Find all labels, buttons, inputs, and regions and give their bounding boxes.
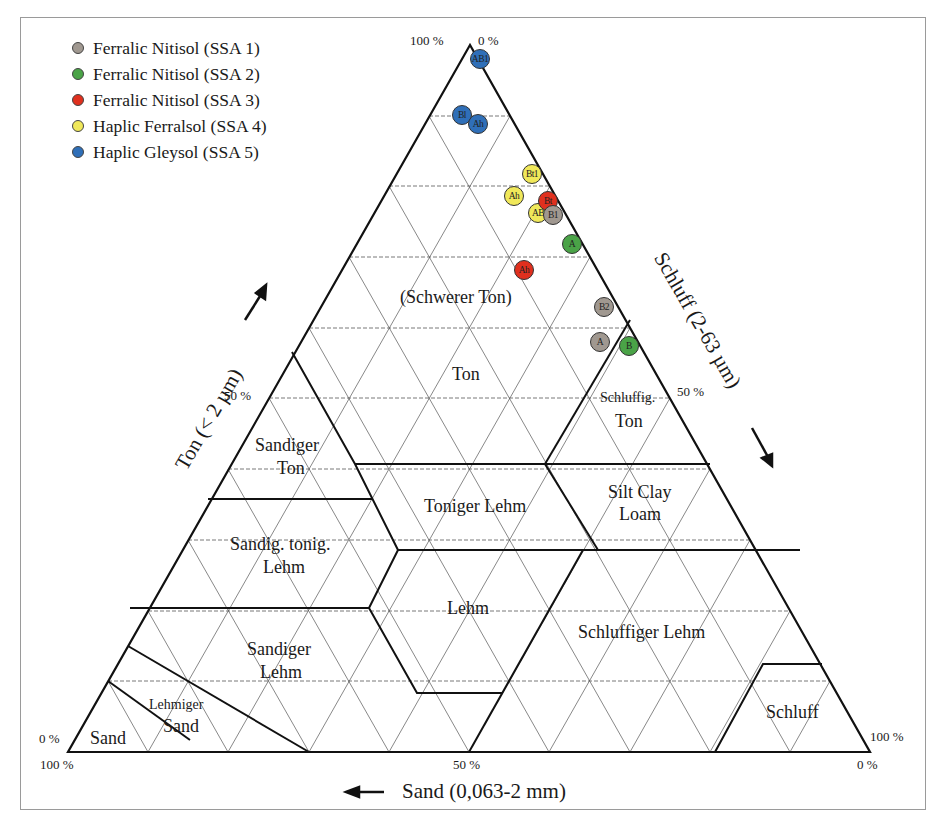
legend-label: Ferralic Nitisol (SSA 2) — [93, 64, 260, 85]
data-point-marker: B1 — [543, 205, 563, 225]
sand-axis-title: Sand (0,063-2 mm) — [402, 779, 566, 804]
legend-marker-icon — [72, 68, 84, 80]
data-point-marker: B — [619, 336, 639, 356]
region-ton: Ton — [452, 363, 480, 385]
legend-label: Ferralic Nitisol (SSA 3) — [93, 90, 260, 111]
tick-silt-0: 0 % — [478, 33, 499, 49]
region-silt-clay-2: Loam — [619, 503, 661, 525]
legend-item: Haplic Gleysol (SSA 5) — [72, 139, 267, 165]
region-silt-clay-1: Silt Clay — [608, 481, 672, 503]
tick-sand-0: 0 % — [857, 757, 878, 773]
grid-lines — [108, 116, 830, 752]
region-lehmiger-sand-2: Sand — [163, 715, 199, 737]
region-schluffig-ton: Ton — [615, 410, 643, 432]
data-point-marker: B2 — [594, 297, 614, 317]
legend-marker-icon — [72, 94, 84, 106]
region-sandiger-lehm-2: Lehm — [260, 661, 302, 683]
region-sandiger-ton-1: Sandiger — [255, 434, 319, 456]
legend-item: Haplic Ferralsol (SSA 4) — [72, 113, 267, 139]
region-lehmiger-sand-1: Lehmiger — [149, 696, 203, 713]
tick-clay-100: 100 % — [410, 33, 444, 49]
data-point-marker: Ah — [468, 114, 488, 134]
legend-item: Ferralic Nitisol (SSA 1) — [72, 35, 267, 61]
data-point-marker: AB1 — [470, 49, 490, 69]
region-lehm: Lehm — [447, 597, 489, 619]
region-schwerer-ton: (Schwerer Ton) — [400, 286, 512, 308]
legend-item: Ferralic Nitisol (SSA 3) — [72, 87, 267, 113]
data-point-marker: Ah — [504, 186, 524, 206]
data-point-marker: Bt1 — [522, 164, 542, 184]
tick-sand-50: 50 % — [453, 757, 480, 773]
region-sandiger-lehm-1: Sandiger — [247, 638, 311, 660]
legend-label: Haplic Gleysol (SSA 5) — [93, 142, 259, 163]
region-sand: Sand — [90, 727, 126, 749]
tick-silt-100: 100 % — [870, 729, 904, 745]
region-sandiger-ton-2: Ton — [277, 457, 305, 479]
data-point-marker: Ah — [514, 260, 534, 280]
region-sandig-tonig-lehm-1: Sandig. tonig. — [230, 533, 331, 555]
region-sandig-tonig-lehm-2: Lehm — [263, 556, 305, 578]
region-schluffiger-lehm: Schluffiger Lehm — [578, 621, 705, 643]
legend: Ferralic Nitisol (SSA 1) Ferralic Nitiso… — [72, 35, 267, 165]
legend-marker-icon — [72, 146, 84, 158]
legend-marker-icon — [72, 120, 84, 132]
data-point-marker: A — [590, 332, 610, 352]
legend-label: Haplic Ferralsol (SSA 4) — [93, 116, 267, 137]
tick-silt-50: 50 % — [677, 384, 704, 400]
region-toniger-lehm: Toniger Lehm — [424, 495, 526, 517]
legend-label: Ferralic Nitisol (SSA 1) — [93, 38, 260, 59]
region-schluff: Schluff — [766, 701, 819, 723]
tick-sand-100: 100 % — [40, 757, 74, 773]
legend-marker-icon — [72, 42, 84, 54]
region-schluffig: Schluffig. — [600, 389, 655, 406]
tick-clay-0: 0 % — [39, 731, 60, 747]
data-point-marker: A — [562, 234, 582, 254]
legend-item: Ferralic Nitisol (SSA 2) — [72, 61, 267, 87]
